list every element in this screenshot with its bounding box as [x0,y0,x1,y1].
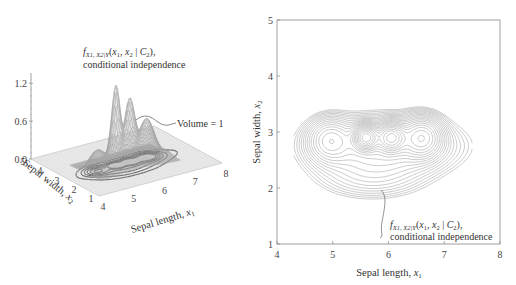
contour-segment [306,128,307,129]
contour-segment [422,168,424,169]
contour-segment [380,149,382,150]
contour-segment [310,131,311,132]
contour-segment [467,139,468,140]
contour-segment [354,155,356,156]
contour-segment [372,140,373,141]
contour-segment [463,133,464,134]
contour-segment [437,115,439,116]
contour-segment [441,160,442,161]
contour-segment [385,125,386,126]
contour-segment [436,118,437,119]
contour-segment [402,130,403,131]
contour-segment [425,165,427,166]
contour-segment [445,120,446,121]
contour-segment [406,170,408,171]
contour-segment [394,141,395,142]
contour-segment [386,126,388,127]
contour-segment [313,134,314,135]
contour-segment [294,156,295,157]
contour-segment [401,180,402,181]
contour-segment [432,113,434,114]
contour-segment [432,155,433,156]
contour-segment [314,178,315,179]
contour-segment [441,166,443,167]
contour-segment [425,184,427,185]
contour-segment [402,175,404,176]
contour-segment [307,122,308,123]
contour-segment [454,130,455,131]
contour-segment [297,133,298,134]
contour-segment [388,141,390,142]
contour-segment [402,147,403,148]
contour-segment [406,181,408,182]
contour-segment [442,113,443,114]
contour-segment [312,118,313,119]
contour-segment [454,125,455,126]
contour-segment [307,129,308,130]
contour-segment [363,140,364,141]
floor-contour-segment [90,172,91,173]
contour-segment [393,134,394,135]
contour-segment [387,135,388,136]
contour-segment [306,121,307,122]
contour-segment [438,111,440,112]
y-tick-label: 1 [268,239,273,250]
contour-segment [386,146,387,147]
contour-segment [385,141,386,142]
contour-segment [430,131,431,132]
contour-segment [312,131,313,132]
contour-segment [396,132,397,133]
contour-segment [448,157,449,158]
contour-segment [341,185,343,186]
contour-segment [435,123,436,124]
contour-segment [314,131,315,132]
contour-segment [436,125,437,126]
contour-segment [372,132,373,133]
contour-segment [451,124,452,125]
contour-segment [443,148,444,149]
contour-segment [401,132,402,133]
contour-segment [313,122,314,123]
contour-segment [414,177,415,178]
contour-segment [412,118,414,119]
contour-segment [368,130,369,131]
contour-segment [448,160,449,161]
contour-segment [381,121,383,122]
x-tick-label: 8 [498,249,503,260]
contour-segment [341,173,343,174]
contour-segment [394,148,396,149]
contour-segment [404,170,406,171]
contour-segment [305,124,306,125]
contour-segment [355,128,356,129]
contour-segment [428,121,430,122]
contour-segment [441,126,442,127]
floor-contour-segment [153,169,154,170]
contour-segment [314,151,315,152]
contour-segment [435,125,436,126]
contour-segment [344,135,345,136]
contour-segment [331,180,332,181]
contour-segment [399,180,401,181]
floor-contour-segment [160,166,161,167]
contour-segment [439,120,440,121]
contour-segment [441,171,443,172]
contour-segment [387,140,388,141]
contour-segment [374,141,375,142]
contour-segment [367,134,369,135]
contour-segment [446,159,447,160]
contour-segment [317,118,318,119]
contour-segment [355,174,357,175]
contour-segment [342,139,343,140]
contour-segment [442,169,443,170]
contour-segment [440,113,442,114]
contour-segment [396,129,397,130]
contour-segment [370,133,371,134]
contour-segment [401,186,403,187]
contour-segment [429,171,430,172]
contour-segment [328,174,329,175]
contour-segment [461,160,462,161]
contour-segment [451,120,452,121]
contour-segment [395,135,396,136]
contour-segment [326,161,328,162]
contour-segment [358,131,359,132]
